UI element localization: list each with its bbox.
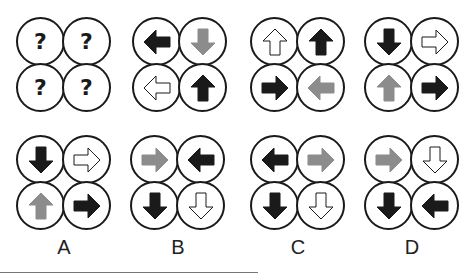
question-cell: ? — [62, 63, 111, 112]
arrow-cell — [410, 63, 459, 112]
arrow-cell — [364, 135, 413, 184]
divider-line — [0, 272, 258, 273]
arrow-down-icon — [26, 145, 56, 175]
arrow-right-icon — [140, 145, 170, 175]
option-d-grid[interactable] — [364, 135, 460, 231]
option-a-grid[interactable] — [16, 135, 112, 231]
arrow-cell — [250, 17, 299, 66]
question-grid: ? ? ? ? — [16, 17, 112, 113]
arrow-cell — [296, 17, 345, 66]
arrow-left-icon — [420, 191, 450, 221]
arrow-left-icon — [142, 27, 172, 57]
arrow-cell — [296, 63, 345, 112]
option-d-label[interactable]: D — [364, 236, 460, 259]
option-b-label[interactable]: B — [130, 236, 226, 259]
arrow-right-icon — [72, 191, 102, 221]
arrow-down-icon — [374, 27, 404, 57]
arrow-cell — [250, 181, 299, 230]
arrow-right-icon — [72, 145, 102, 175]
arrow-cell — [364, 63, 413, 112]
arrow-cell — [132, 63, 181, 112]
arrow-up-icon — [306, 27, 336, 57]
arrow-right-icon — [420, 73, 450, 103]
arrow-down-icon — [306, 191, 336, 221]
option-b-grid[interactable] — [130, 135, 226, 231]
sequence-grid-1 — [132, 17, 228, 113]
arrow-cell — [410, 135, 459, 184]
arrow-cell — [130, 135, 179, 184]
question-mark: ? — [34, 75, 47, 100]
question-mark: ? — [80, 29, 93, 54]
arrow-right-icon — [306, 145, 336, 175]
arrow-cell — [364, 181, 413, 230]
arrow-down-icon — [188, 27, 218, 57]
sequence-grid-3 — [364, 17, 460, 113]
arrow-up-icon — [26, 191, 56, 221]
arrow-left-icon — [260, 145, 290, 175]
arrow-cell — [178, 17, 227, 66]
arrow-down-icon — [374, 191, 404, 221]
arrow-cell — [178, 63, 227, 112]
arrow-left-icon — [186, 145, 216, 175]
arrow-cell — [410, 181, 459, 230]
question-cell: ? — [62, 17, 111, 66]
arrow-cell — [16, 135, 65, 184]
arrow-cell — [62, 135, 111, 184]
option-c-label[interactable]: C — [250, 236, 346, 259]
arrow-cell — [62, 181, 111, 230]
question-mark: ? — [34, 29, 47, 54]
arrow-up-icon — [374, 73, 404, 103]
arrow-down-icon — [186, 191, 216, 221]
arrow-cell — [364, 17, 413, 66]
arrow-cell — [250, 135, 299, 184]
arrow-right-icon — [260, 73, 290, 103]
arrow-cell — [296, 181, 345, 230]
arrow-cell — [176, 135, 225, 184]
arrow-down-icon — [140, 191, 170, 221]
option-a-label[interactable]: A — [16, 236, 112, 259]
arrow-up-icon — [188, 73, 218, 103]
question-mark: ? — [80, 75, 93, 100]
question-cell: ? — [16, 17, 65, 66]
arrow-down-icon — [420, 145, 450, 175]
arrow-right-icon — [420, 27, 450, 57]
arrow-cell — [132, 17, 181, 66]
question-cell: ? — [16, 63, 65, 112]
arrow-down-icon — [260, 191, 290, 221]
arrow-up-icon — [260, 27, 290, 57]
arrow-cell — [130, 181, 179, 230]
option-c-grid[interactable] — [250, 135, 346, 231]
arrow-left-icon — [306, 73, 336, 103]
arrow-cell — [250, 63, 299, 112]
arrow-cell — [296, 135, 345, 184]
arrow-right-icon — [374, 145, 404, 175]
arrow-left-icon — [142, 73, 172, 103]
arrow-cell — [16, 181, 65, 230]
arrow-cell — [410, 17, 459, 66]
sequence-grid-2 — [250, 17, 346, 113]
arrow-cell — [176, 181, 225, 230]
